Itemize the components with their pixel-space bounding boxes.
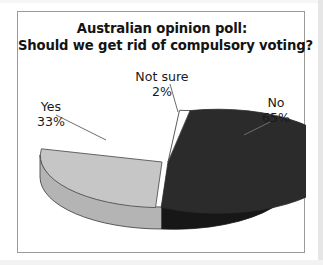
pie-label-yes-value: 33% xyxy=(24,115,78,130)
pie-label-no-value: 65% xyxy=(250,111,302,126)
pie-label-no: No 65% xyxy=(250,96,302,125)
page-edge-top xyxy=(0,0,323,3)
pie-label-no-name: No xyxy=(250,96,302,111)
pie-label-not-sure: Not sure 2% xyxy=(126,70,198,99)
pie-chart-graphic xyxy=(18,12,306,254)
pie-label-not-sure-name: Not sure xyxy=(126,70,198,85)
chart-frame: Australian opinion poll: Should we get r… xyxy=(17,11,305,253)
page-edge-right xyxy=(318,0,323,265)
pie-slice-no-cut-face xyxy=(162,207,168,229)
page-canvas: Australian opinion poll: Should we get r… xyxy=(0,0,323,265)
page-edge-bottom xyxy=(0,260,323,265)
pie-label-yes-name: Yes xyxy=(24,100,78,115)
pie-label-not-sure-value: 2% xyxy=(126,85,198,100)
pie-label-yes: Yes 33% xyxy=(24,100,78,129)
